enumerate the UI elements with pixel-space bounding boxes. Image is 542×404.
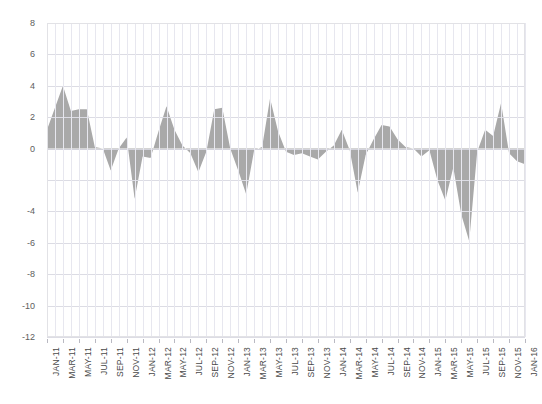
x-axis-tick-label: JAN-14 [338,347,348,377]
gridline-vertical [525,23,526,337]
gridline-vertical [111,23,112,337]
gridline-vertical [374,23,375,337]
x-axis-tick [174,339,175,343]
gridline-vertical [254,23,255,337]
gridline-vertical [350,23,351,337]
gridline-vertical [47,23,48,337]
y-axis-tick-label: -6 [0,238,41,248]
gridline-vertical [135,23,136,337]
x-axis-tick-label: JAN-13 [242,347,252,377]
x-axis-tick-label: NOV-12 [226,347,236,378]
x-axis-tick-label: MAY-12 [178,347,188,378]
gridline-vertical [485,23,486,337]
gridline-horizontal [47,337,525,338]
gridline-vertical [190,23,191,337]
x-axis-tick-label: JUL-11 [99,347,109,375]
chart-root: 86420-4-6-8-10-12 JAN-11MAR-11MAY-11JUL-… [0,0,542,404]
x-axis-tick-label: NOV-11 [131,347,141,378]
y-axis-tick-label: 8 [0,18,41,28]
gridline-vertical [151,23,152,337]
gridline-vertical [429,23,430,337]
x-axis-tick [190,339,191,343]
y-axis-tick-label: -10 [0,301,41,311]
x-axis-tick-label: JUL-15 [481,347,491,376]
gridline-vertical [294,23,295,337]
gridline-vertical [445,23,446,337]
gridline-vertical [517,23,518,337]
gridline-vertical [421,23,422,337]
y-axis-tick-label: -4 [0,206,41,216]
x-axis-tick [206,339,207,343]
gridline-vertical [477,23,478,337]
gridline-vertical [286,23,287,337]
gridline-vertical [318,23,319,337]
gridline-vertical [509,23,510,337]
x-axis-tick [47,339,48,343]
x-axis-tick-label: MAR-13 [258,347,268,379]
y-axis-tick-label: -12 [0,332,41,342]
x-axis-tick-label: MAY-15 [465,347,475,378]
x-axis-tick-label: JUL-12 [194,347,204,376]
gridline-vertical [366,23,367,337]
x-axis-tick [525,339,526,343]
y-axis-tick-label: 0 [0,144,41,154]
x-axis-tick-label: NOV-15 [513,347,523,378]
x-axis-tick-label: MAR-12 [163,347,173,379]
x-axis-tick-label: JAN-16 [529,347,539,377]
gridline-vertical [103,23,104,337]
gridline-vertical [406,23,407,337]
gridline-vertical [119,23,120,337]
gridline-vertical [469,23,470,337]
gridline-vertical [493,23,494,337]
x-axis-tick [334,339,335,343]
gridline-vertical [222,23,223,337]
gridline-vertical [501,23,502,337]
gridline-vertical [63,23,64,337]
gridline-vertical [87,23,88,337]
y-axis: 86420-4-6-8-10-12 [0,23,41,337]
gridline-vertical [278,23,279,337]
gridline-vertical [358,23,359,337]
gridline-vertical [453,23,454,337]
x-axis-tick [111,339,112,343]
x-axis-tick [318,339,319,343]
x-axis-tick [222,339,223,343]
gridline-vertical [398,23,399,337]
x-axis-tick-label: MAY-11 [83,347,93,377]
x-axis-tick [127,339,128,343]
x-axis-tick [461,339,462,343]
x-axis-tick-label: JAN-12 [147,347,157,377]
gridline-vertical [246,23,247,337]
x-axis-tick [509,339,510,343]
x-axis-tick-label: SEP-11 [115,347,125,377]
gridline-vertical [127,23,128,337]
x-axis-tick [382,339,383,343]
gridline-vertical [206,23,207,337]
x-axis-tick-label: JUL-14 [386,347,396,376]
x-axis-tick-label: SEP-13 [306,347,316,378]
x-axis-tick-label: MAR-14 [354,347,364,379]
gridline-vertical [174,23,175,337]
x-axis-tick [270,339,271,343]
x-axis-tick [429,339,430,343]
x-axis-tick-label: JUL-13 [290,347,300,376]
gridline-vertical [326,23,327,337]
gridline-vertical [310,23,311,337]
x-axis-tick [493,339,494,343]
x-axis-tick-label: MAY-13 [274,347,284,378]
x-axis-tick [254,339,255,343]
x-axis-tick [302,339,303,343]
y-axis-tick-label: 2 [0,112,41,122]
gridline-vertical [55,23,56,337]
x-axis-tick [159,339,160,343]
x-axis-tick [238,339,239,343]
gridline-vertical [382,23,383,337]
gridline-vertical [262,23,263,337]
x-axis-tick [63,339,64,343]
gridline-vertical [390,23,391,337]
x-axis-tick [79,339,80,343]
x-axis-tick [95,339,96,343]
plot-area [47,23,525,337]
gridline-vertical [214,23,215,337]
gridline-vertical [79,23,80,337]
